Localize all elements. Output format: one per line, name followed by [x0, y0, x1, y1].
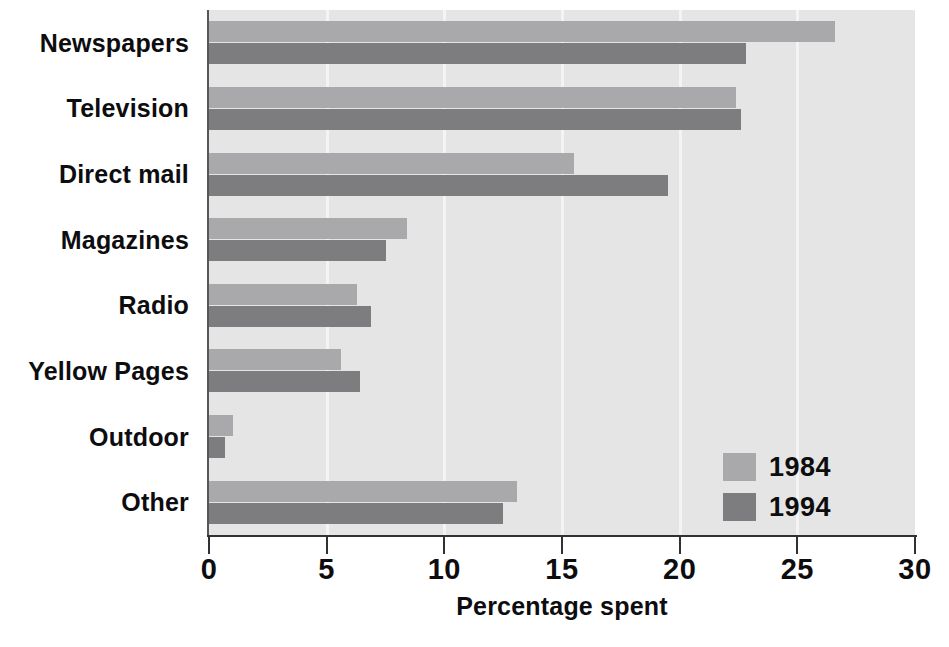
- bar: [209, 175, 668, 196]
- bar: [209, 349, 341, 370]
- bar: [209, 218, 407, 239]
- bar: [209, 21, 835, 42]
- bar: [209, 43, 746, 64]
- bar-chart: 051015202530 NewspapersTelevisionDirect …: [0, 0, 949, 647]
- x-tick: [679, 537, 681, 554]
- x-tick: [326, 537, 328, 554]
- x-tick: [443, 537, 445, 554]
- category-label: Yellow Pages: [28, 356, 189, 385]
- legend-swatch-icon: [723, 453, 756, 481]
- category-label: Outdoor: [89, 422, 189, 451]
- bar: [209, 371, 360, 392]
- x-tick-label: 0: [201, 553, 218, 586]
- bar: [209, 503, 503, 524]
- x-tick: [561, 537, 563, 554]
- x-tick-label: 5: [318, 553, 335, 586]
- x-tick: [208, 537, 210, 554]
- legend-label: 1994: [769, 492, 831, 523]
- legend-item-1994: 1994: [723, 492, 831, 522]
- x-tick-label: 20: [663, 553, 696, 586]
- bar: [209, 481, 517, 502]
- legend-label: 1984: [769, 452, 831, 483]
- bar: [209, 437, 225, 458]
- x-tick-label: 25: [781, 553, 814, 586]
- x-tick: [796, 537, 798, 554]
- bar: [209, 284, 357, 305]
- category-label: Newspapers: [40, 28, 189, 57]
- x-tick: [914, 537, 916, 554]
- category-label: Radio: [119, 291, 189, 320]
- category-label: Direct mail: [59, 160, 189, 189]
- x-axis-title: Percentage spent: [209, 592, 915, 621]
- x-tick-label: 10: [428, 553, 461, 586]
- bar: [209, 306, 371, 327]
- x-tick-label: 30: [898, 553, 931, 586]
- bar: [209, 153, 574, 174]
- bar: [209, 240, 386, 261]
- x-tick-label: 15: [545, 553, 578, 586]
- bar: [209, 109, 741, 130]
- y-axis-line: [207, 10, 209, 535]
- bar: [209, 87, 736, 108]
- category-label: Magazines: [61, 225, 189, 254]
- category-label: Other: [121, 488, 189, 517]
- legend-swatch-icon: [723, 493, 756, 521]
- legend: 1984 1994: [723, 452, 883, 524]
- legend-item-1984: 1984: [723, 452, 831, 482]
- category-label: Television: [67, 94, 189, 123]
- bar: [209, 415, 233, 436]
